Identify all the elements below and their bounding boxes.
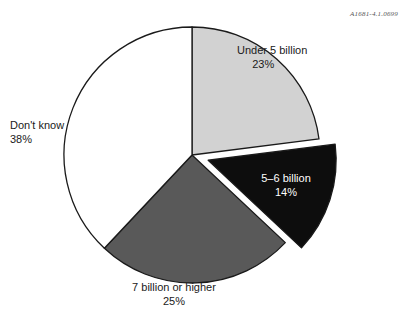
pie-label-name: Under 5 billion — [237, 44, 307, 58]
pie-label-percent: 38% — [10, 133, 102, 147]
pie-label-dont-know: Don't know 38% — [10, 119, 102, 146]
pie-label-5-to-6-billion: 5–6 billion 14% — [247, 172, 325, 199]
pie-label-percent: 23% — [237, 58, 307, 72]
pie-label-under-5-billion: Under 5 billion 23% — [237, 44, 307, 71]
pie-label-percent: 25% — [104, 295, 244, 309]
pie-label-name: 7 billion or higher — [104, 281, 244, 295]
pie-chart — [0, 0, 408, 309]
pie-label-name: Don't know — [10, 119, 102, 133]
pie-label-name: 5–6 billion — [247, 172, 325, 186]
pie-label-7-billion-or-higher: 7 billion or higher 25% — [104, 281, 244, 308]
pie-label-percent: 14% — [247, 186, 325, 200]
chart-page: A1681-4.1.0699 Under 5 billion 23% 5–6 b… — [0, 0, 408, 309]
